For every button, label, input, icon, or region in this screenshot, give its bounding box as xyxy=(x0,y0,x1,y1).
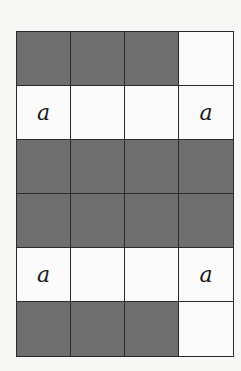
cell-r4-c2 xyxy=(71,194,125,248)
cell-r5-c3 xyxy=(125,248,179,302)
cell-r2-c2 xyxy=(71,86,125,140)
cell-r6-c3 xyxy=(125,302,179,356)
cell-r2-c3 xyxy=(125,86,179,140)
cell-r1-c1 xyxy=(17,32,71,86)
cell-r3-c3 xyxy=(125,140,179,194)
cell-r2-c1: a xyxy=(17,86,71,140)
cell-r2-c4: a xyxy=(179,86,233,140)
cell-r5-c1: a xyxy=(17,248,71,302)
cell-r3-c4 xyxy=(179,140,233,194)
cell-r6-c1 xyxy=(17,302,71,356)
cell-r4-c4 xyxy=(179,194,233,248)
cell-r4-c1 xyxy=(17,194,71,248)
tile-grid: a a a a xyxy=(16,31,234,357)
cell-r6-c4 xyxy=(179,302,233,356)
cell-r5-c4: a xyxy=(179,248,233,302)
cell-r6-c2 xyxy=(71,302,125,356)
cell-r1-c3 xyxy=(125,32,179,86)
cell-r4-c3 xyxy=(125,194,179,248)
cell-r5-c2 xyxy=(71,248,125,302)
cell-r1-c2 xyxy=(71,32,125,86)
cell-r1-c4 xyxy=(179,32,233,86)
cell-r3-c2 xyxy=(71,140,125,194)
cell-r3-c1 xyxy=(17,140,71,194)
